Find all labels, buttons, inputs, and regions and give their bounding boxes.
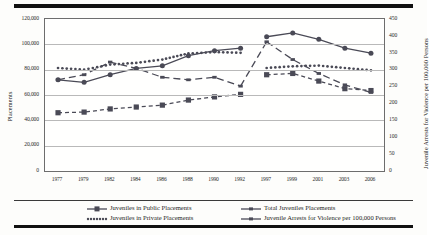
y-tick-label-right: 300 (389, 65, 415, 71)
data-point (304, 65, 307, 68)
data-point (291, 58, 295, 61)
plot-area (44, 18, 385, 172)
data-point (339, 66, 342, 69)
gridline (45, 146, 384, 147)
data-point (222, 51, 225, 54)
data-point (186, 78, 190, 81)
data-point (144, 60, 147, 63)
data-point (235, 51, 238, 54)
y-tick-label-left: 100,000 (0, 40, 39, 46)
data-point (172, 56, 175, 59)
y-tick-label-right: 450 (389, 15, 415, 21)
data-point (104, 64, 107, 67)
data-point (316, 78, 321, 83)
data-point (239, 51, 242, 54)
x-tick-label: 2006 (353, 176, 387, 182)
data-point (317, 72, 321, 75)
data-point (287, 65, 290, 68)
data-point (317, 64, 320, 67)
y-tick-label-right: 0 (389, 167, 415, 173)
legend-label: Juveniles in Private Placements (110, 214, 193, 221)
data-point (264, 40, 268, 43)
data-point (283, 66, 286, 69)
y-tick-label-right: 250 (389, 82, 415, 88)
legend-label: Juveniles in Public Placements (110, 204, 192, 211)
gridline (45, 120, 384, 121)
data-point (291, 65, 294, 68)
data-point (165, 57, 168, 60)
data-point (82, 73, 86, 76)
y-tick-label-left: 80,000 (0, 65, 39, 71)
y-tick-label-right: 100 (389, 133, 415, 139)
data-point (148, 60, 151, 63)
data-point (290, 30, 295, 35)
data-point (157, 59, 160, 62)
data-point (226, 51, 229, 54)
y-tick-label-left: 0 (0, 167, 39, 173)
legend-swatch-icon (86, 214, 108, 223)
data-point (322, 65, 325, 68)
y-axis-label-right: Juvenile Arrests for Violence per 100,00… (422, 14, 429, 194)
data-point (316, 37, 321, 42)
series-line (267, 42, 371, 93)
data-point (204, 51, 207, 54)
data-point (118, 63, 121, 66)
data-point (82, 80, 87, 85)
data-point (274, 66, 277, 69)
data-point (369, 91, 373, 94)
gridline (45, 70, 384, 71)
data-point (183, 53, 186, 56)
data-point (191, 52, 194, 55)
legend-label: Juvenile Arrests for Violence per 100,00… (264, 214, 396, 221)
data-point (96, 66, 99, 69)
data-point (186, 97, 191, 102)
data-point (113, 63, 116, 66)
top-rule (14, 4, 413, 8)
data-point (212, 76, 216, 79)
data-point (264, 34, 269, 39)
legend-label: Total Juveniles Placements (264, 204, 335, 211)
data-point (168, 56, 171, 59)
data-point (343, 83, 347, 86)
y-tick-label-right: 150 (389, 116, 415, 122)
data-point (342, 46, 347, 51)
data-point (56, 78, 60, 81)
data-point (109, 63, 112, 66)
data-point (160, 63, 165, 68)
y-tick-label-left: 40,000 (0, 116, 39, 122)
data-point (161, 58, 164, 61)
series-line (267, 33, 371, 53)
gridline (45, 95, 384, 96)
legend-swatch-icon (86, 204, 108, 213)
data-point (108, 106, 113, 111)
chart-legend: Juveniles in Public PlacementsJuveniles … (14, 200, 413, 228)
y-tick-label-right: 50 (389, 150, 415, 156)
data-point (231, 51, 234, 54)
data-point (135, 62, 138, 65)
data-point (160, 76, 164, 79)
data-point (309, 64, 312, 67)
data-point (209, 51, 212, 54)
data-point (200, 51, 203, 54)
data-point (217, 51, 220, 54)
data-point (313, 64, 316, 67)
y-tick-label-right: 400 (389, 32, 415, 38)
y-tick-label-left: 60,000 (0, 91, 39, 97)
data-point (187, 52, 190, 55)
data-point (270, 66, 273, 69)
data-point (290, 71, 295, 76)
data-point (238, 46, 243, 51)
data-point (108, 72, 113, 77)
data-point (131, 62, 134, 65)
data-point (126, 62, 129, 65)
data-point (335, 66, 338, 69)
data-point (326, 65, 329, 68)
legend-swatch-icon (240, 204, 262, 213)
data-point (134, 104, 139, 109)
data-point (180, 54, 183, 57)
data-point (278, 66, 281, 69)
y-tick-label-left: 120,000 (0, 15, 39, 21)
y-axis-label-left: Placements (6, 62, 13, 152)
data-point (160, 103, 165, 108)
